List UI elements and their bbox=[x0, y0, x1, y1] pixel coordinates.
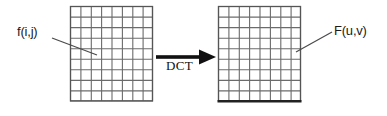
dct-diagram-figure: f(i,j) F(u,v) DCT bbox=[0, 0, 387, 116]
frequency-domain-grid bbox=[218, 6, 302, 101]
dct-arrow-head bbox=[199, 50, 216, 65]
diagram-canvas bbox=[0, 0, 387, 116]
dct-transform-label: DCT bbox=[166, 58, 193, 74]
frequency-domain-label: F(u,v) bbox=[334, 23, 367, 38]
spatial-domain-label: f(i,j) bbox=[17, 24, 37, 39]
leader-line-Fuv bbox=[296, 32, 332, 52]
spatial-domain-grid bbox=[70, 6, 153, 101]
